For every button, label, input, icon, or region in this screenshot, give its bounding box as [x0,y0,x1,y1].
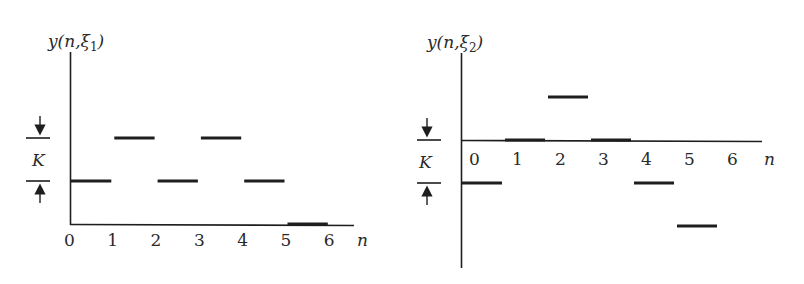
x-tick-labels: 0123456 [64,230,335,250]
k-dimension-marker: K [417,118,441,205]
x-tick-label: 2 [555,149,566,169]
x-tick-label: 3 [598,149,609,169]
y-axis-label: y(n,ξ1) [47,31,104,54]
k-dimension-marker: K [26,116,50,203]
plot-y-xi2: y(n,ξ2) 0123456 n K [417,32,775,268]
y-axis-label: y(n,ξ2) [426,32,483,55]
x-tick-label: 4 [237,230,248,250]
k-label: K [31,150,46,170]
x-axis-label: n [764,149,775,169]
x-tick-label: 5 [281,230,292,250]
x-tick-label: 1 [107,230,118,250]
x-tick-label: 1 [512,149,523,169]
step-segments [70,138,328,224]
x-axis-label: n [357,230,368,250]
figure: y(n,ξ1) 0123456 n K y(n,ξ2) 0123456 n [0,0,804,284]
x-tick-label: 2 [151,230,162,250]
k-label: K [418,152,433,172]
x-tick-labels: 0123456 [469,149,738,169]
x-tick-label: 0 [64,230,75,250]
step-segments [461,97,717,226]
plot-y-xi1: y(n,ξ1) 0123456 n K [26,31,368,250]
x-tick-label: 0 [469,149,480,169]
x-tick-label: 6 [727,149,738,169]
x-tick-label: 3 [194,230,205,250]
x-tick-label: 5 [684,149,695,169]
x-tick-label: 6 [324,230,335,250]
x-tick-label: 4 [641,149,652,169]
